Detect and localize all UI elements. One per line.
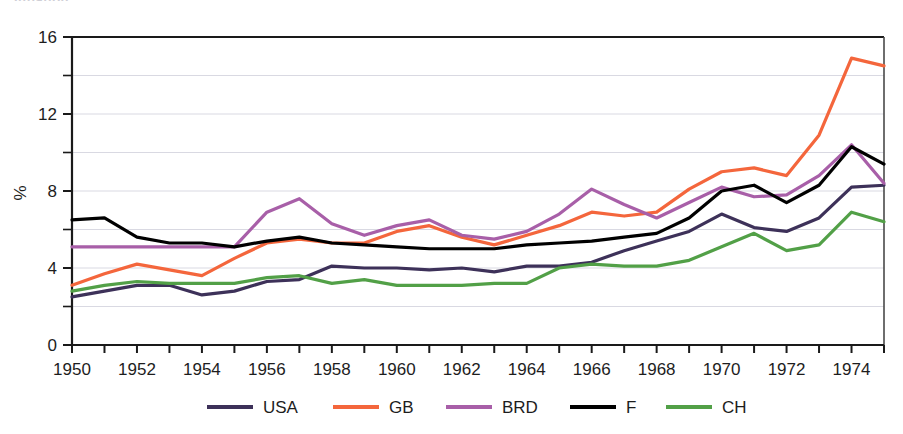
series-line-gb xyxy=(72,58,884,285)
y-tick-label: 0 xyxy=(48,336,57,355)
x-tick-label: 1970 xyxy=(703,360,741,379)
series-line-ch xyxy=(72,212,884,291)
x-tick-label: 1962 xyxy=(443,360,481,379)
page-title: Inflation xyxy=(14,0,69,1)
x-tick-label: 1960 xyxy=(378,360,416,379)
y-tick-label: 16 xyxy=(38,28,57,47)
x-tick-label: 1966 xyxy=(573,360,611,379)
legend-label-ch: CH xyxy=(722,398,747,417)
x-tick-label: 1974 xyxy=(833,360,871,379)
legend-label-gb: GB xyxy=(389,398,414,417)
legend-label-usa: USA xyxy=(263,398,299,417)
x-tick-label: 1954 xyxy=(183,360,221,379)
x-tick-label: 1956 xyxy=(248,360,286,379)
x-tick-label: 1950 xyxy=(53,360,91,379)
series-line-brd xyxy=(72,145,884,247)
legend-label-brd: BRD xyxy=(502,398,538,417)
chart-canvas: 0481216%19501952195419561958196019621964… xyxy=(0,0,903,434)
legend-label-f: F xyxy=(626,398,636,417)
x-tick-label: 1972 xyxy=(768,360,806,379)
y-tick-label: 4 xyxy=(48,259,57,278)
y-tick-label: 12 xyxy=(38,105,57,124)
x-tick-label: 1968 xyxy=(638,360,676,379)
x-tick-label: 1964 xyxy=(508,360,546,379)
x-tick-label: 1952 xyxy=(118,360,156,379)
inflation-line-chart: Inflation 0481216%1950195219541956195819… xyxy=(0,0,903,434)
x-tick-label: 1958 xyxy=(313,360,351,379)
y-axis-title: % xyxy=(11,185,30,200)
y-tick-label: 8 xyxy=(48,182,57,201)
